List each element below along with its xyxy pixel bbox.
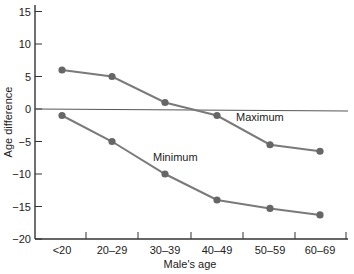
y-tick-label: −20 bbox=[12, 233, 31, 245]
maximum-series-label: Maximum bbox=[236, 111, 284, 123]
minimum-point bbox=[213, 196, 220, 203]
y-tick-label: 0 bbox=[25, 103, 31, 115]
axes: 151050−5−10−15−20<2020–2930–3940–4950–59… bbox=[12, 5, 348, 256]
y-tick-label: −10 bbox=[12, 168, 31, 180]
y-tick-label: 5 bbox=[25, 71, 31, 83]
maximum-point bbox=[316, 148, 323, 155]
maximum-point bbox=[213, 112, 220, 119]
minimum-line bbox=[62, 116, 320, 215]
x-tick-label: <20 bbox=[53, 244, 72, 256]
y-tick-label: −15 bbox=[12, 201, 31, 213]
x-tick-label: 40–49 bbox=[202, 244, 233, 256]
x-tick-label: 60–69 bbox=[305, 244, 336, 256]
maximum-point bbox=[266, 141, 273, 148]
minimum-point bbox=[316, 211, 323, 218]
maximum-point bbox=[161, 99, 168, 106]
minimum-point bbox=[161, 170, 168, 177]
maximum-point bbox=[108, 73, 115, 80]
maximum-point bbox=[58, 66, 65, 73]
minimum-series-label: Minimum bbox=[153, 151, 198, 163]
minimum-point bbox=[266, 205, 273, 212]
y-axis-title: Age difference bbox=[2, 87, 14, 158]
x-axis-title: Male's age bbox=[164, 258, 217, 270]
x-tick-label: 30–39 bbox=[150, 244, 181, 256]
y-tick-label: −5 bbox=[18, 136, 31, 148]
x-tick-label: 20–29 bbox=[97, 244, 128, 256]
minimum-point bbox=[108, 138, 115, 145]
x-tick-label: 50–59 bbox=[255, 244, 286, 256]
series-lines bbox=[58, 66, 323, 218]
minimum-point bbox=[58, 112, 65, 119]
y-tick-label: 10 bbox=[19, 38, 31, 50]
y-tick-label: 15 bbox=[19, 6, 31, 18]
age-difference-chart: 151050−5−10−15−20<2020–2930–3940–4950–59… bbox=[0, 0, 354, 274]
